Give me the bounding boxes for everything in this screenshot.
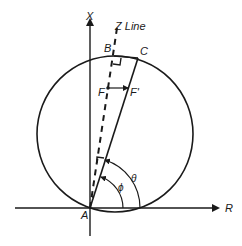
point-c-label: C (140, 45, 148, 57)
point-f-label: F (98, 86, 106, 98)
circle (37, 56, 193, 212)
z-line-label: Z Line (114, 20, 146, 32)
phi-label: ϕ (118, 182, 124, 193)
segment-bc (114, 56, 138, 58)
point-a-label: A (80, 209, 88, 221)
x-axis-label: X (85, 10, 94, 22)
point-b-label: B (104, 42, 111, 54)
theta-label: θ (131, 173, 137, 184)
geometry-figure: X R Z Line B C F F' A θ ϕ (0, 0, 242, 246)
r-axis-label: R (225, 202, 233, 214)
diagram-canvas: X R Z Line B C F F' A θ ϕ (0, 0, 242, 246)
point-fprime-label: F' (130, 86, 140, 98)
z-line (90, 28, 117, 208)
small-arc-a (92, 196, 93, 198)
right-angle-marker-b (113, 58, 121, 65)
